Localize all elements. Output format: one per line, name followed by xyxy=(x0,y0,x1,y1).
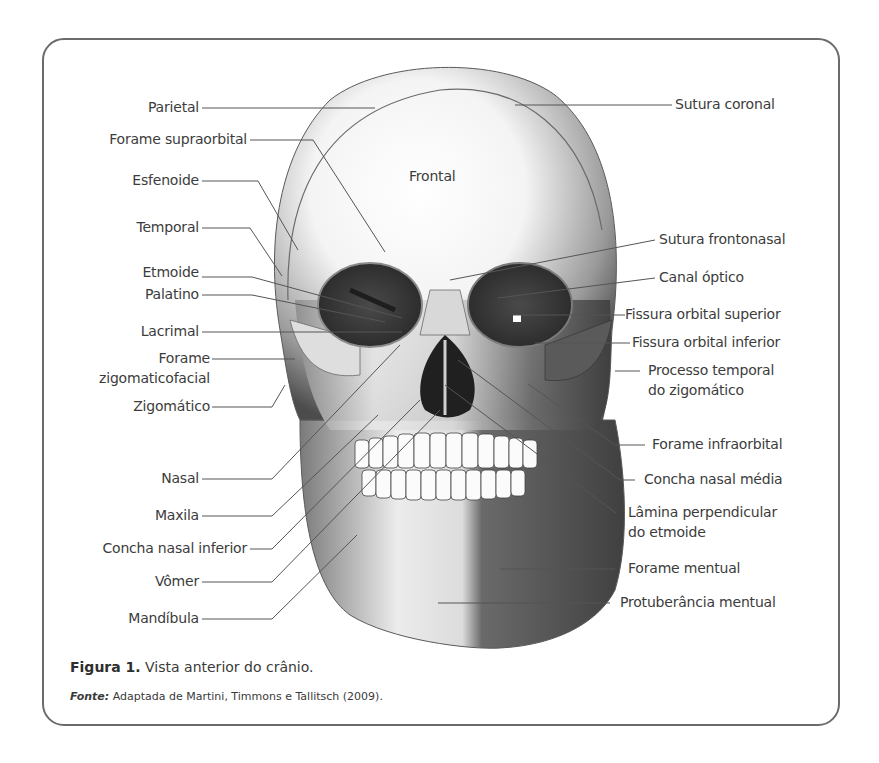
label-protuberancia-mentual: Protuberância mentual xyxy=(620,594,776,611)
label-concha-nasal-media: Concha nasal média xyxy=(644,471,783,488)
label-palatino: Palatino xyxy=(145,286,199,303)
label-lamina-perpendicular: Lâmina perpendicular xyxy=(628,504,777,521)
source-text: Adaptada de Martini, Timmons e Tallitsch… xyxy=(113,690,383,703)
label-vomer: Vômer xyxy=(155,573,199,590)
figure-caption: Figura 1. Vista anterior do crânio. xyxy=(70,659,314,675)
label-forame-infraorbital: Forame infraorbital xyxy=(652,436,782,453)
label-lamina-perpendicular-line2: do etmoide xyxy=(628,524,706,541)
label-sutura-coronal: Sutura coronal xyxy=(675,96,775,113)
label-etmoide: Etmoide xyxy=(142,264,199,281)
label-forame-mentual: Forame mentual xyxy=(628,560,740,577)
label-sutura-frontonasal: Sutura frontonasal xyxy=(659,231,785,248)
label-fissura-orbital-superior: Fissura orbital superior xyxy=(625,306,781,323)
caption-label: Figura 1. xyxy=(70,659,141,675)
label-esfenoide: Esfenoide xyxy=(132,172,199,189)
label-concha-nasal-inferior: Concha nasal inferior xyxy=(102,540,247,557)
label-nasal: Nasal xyxy=(161,470,199,487)
source-label: Fonte: xyxy=(70,690,109,703)
left-orbit xyxy=(318,263,422,347)
label-mandibula: Mandíbula xyxy=(128,610,199,627)
label-frontal: Frontal xyxy=(409,168,455,185)
label-canal-optico: Canal óptico xyxy=(659,269,744,286)
figure-source: Fonte: Adaptada de Martini, Timmons e Ta… xyxy=(70,690,383,703)
label-forame-zigomaticofacial: Forame xyxy=(158,350,210,367)
label-forame-supraorbital: Forame supraorbital xyxy=(109,131,247,148)
caption-text: Vista anterior do crânio. xyxy=(145,659,313,675)
label-temporal: Temporal xyxy=(136,219,199,236)
label-zigomatico: Zigomático xyxy=(133,398,210,415)
label-parietal: Parietal xyxy=(148,99,199,116)
label-lacrimal: Lacrimal xyxy=(141,323,199,340)
label-maxila: Maxila xyxy=(155,507,199,524)
label-forame-zigomaticofacial-line2: zigomaticofacial xyxy=(99,370,210,387)
label-fissura-orbital-inferior: Fissura orbital inferior xyxy=(632,334,780,351)
label-processo-temporal: Processo temporal xyxy=(648,362,774,379)
right-orbit xyxy=(468,263,572,347)
label-processo-temporal-line2: do zigomático xyxy=(648,382,744,399)
